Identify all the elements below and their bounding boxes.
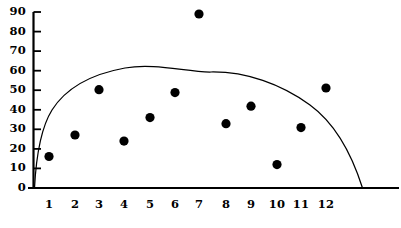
- x-tick-label-7: 7: [189, 199, 209, 211]
- x-tick-label-2: 2: [65, 199, 85, 211]
- data-point: [170, 88, 179, 97]
- data-point: [119, 137, 128, 146]
- x-tick-label-4: 4: [114, 199, 134, 211]
- x-tick-label-5: 5: [140, 199, 160, 211]
- y-tick-label-50: 50: [2, 84, 26, 96]
- x-tick-label-3: 3: [89, 199, 109, 211]
- y-tick-label-80: 80: [2, 26, 26, 38]
- x-tick-label-11: 11: [291, 199, 311, 211]
- y-tick-label-20: 20: [2, 143, 26, 155]
- data-point: [246, 102, 255, 111]
- y-tick-label-30: 30: [2, 123, 26, 135]
- x-tick-label-6: 6: [165, 199, 185, 211]
- data-point: [145, 113, 154, 122]
- data-point: [70, 130, 79, 139]
- y-tick-label-40: 40: [2, 104, 26, 116]
- y-tick-label-0: 0: [2, 182, 26, 194]
- y-tick-label-60: 60: [2, 65, 26, 77]
- y-tick-label-10: 10: [2, 162, 26, 174]
- data-point: [194, 9, 203, 18]
- data-point: [94, 85, 103, 94]
- data-point: [44, 152, 53, 161]
- y-tick-label-90: 90: [2, 6, 26, 18]
- data-point: [296, 123, 305, 132]
- chart-plot-area: [0, 0, 401, 228]
- fitted-curve: [35, 66, 363, 188]
- data-point-markers: [44, 9, 330, 169]
- x-tick-label-8: 8: [216, 199, 236, 211]
- x-tick-label-10: 10: [267, 199, 287, 211]
- x-tick-label-12: 12: [316, 199, 336, 211]
- x-tick-label-1: 1: [39, 199, 59, 211]
- y-tick-label-70: 70: [2, 45, 26, 57]
- x-tick-label-9: 9: [241, 199, 261, 211]
- data-point: [221, 119, 230, 128]
- scatter-chart: 90 80 70 60 50 40 30 20 10 0 1 2 3 4 5 6…: [0, 0, 401, 228]
- data-point: [272, 160, 281, 169]
- data-point: [321, 83, 330, 92]
